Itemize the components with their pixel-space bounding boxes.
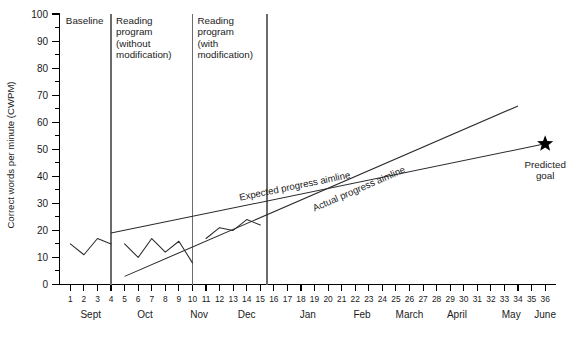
x-axis-month-label: March xyxy=(396,309,424,320)
phase-label-line: modification) xyxy=(116,49,172,60)
x-tick-label: 1 xyxy=(68,294,73,304)
predicted-goal-label-line1: Predicted xyxy=(524,159,565,170)
x-tick-label: 29 xyxy=(446,294,456,304)
phase-label-line: Baseline xyxy=(66,15,104,26)
x-axis-ticks xyxy=(70,285,545,292)
x-axis-month-label: Nov xyxy=(190,309,208,320)
x-axis-month-label: Dec xyxy=(238,309,256,320)
aimline-label-group: Expected progress aimlineActual progress… xyxy=(238,164,407,214)
x-tick-label: 21 xyxy=(337,294,347,304)
x-axis-month-label: Jan xyxy=(300,309,316,320)
phase-condition-labels: BaselineReadingprogram(withoutmodificati… xyxy=(66,15,253,60)
y-tick-label: 40 xyxy=(37,171,49,182)
aimline xyxy=(125,106,518,276)
data-series-group xyxy=(70,220,260,263)
y-tick-label: 60 xyxy=(37,117,49,128)
x-tick-label: 3 xyxy=(95,294,100,304)
chart-canvas: Correct words per minute (CWPM) 01020304… xyxy=(0,0,568,339)
x-tick-label: 23 xyxy=(364,294,374,304)
y-axis-tick-labels: 0102030405060708090100 xyxy=(31,9,48,291)
x-tick-label: 33 xyxy=(500,294,510,304)
progress-monitoring-chart: Correct words per minute (CWPM) 01020304… xyxy=(0,0,568,339)
x-tick-label: 14 xyxy=(242,294,252,304)
phase-label-line: program xyxy=(116,26,152,37)
x-tick-label: 4 xyxy=(109,294,114,304)
y-tick-label: 20 xyxy=(37,225,49,236)
data-series-line xyxy=(70,239,111,255)
x-axis-month-label: Feb xyxy=(353,309,371,320)
x-tick-label: 6 xyxy=(136,294,141,304)
x-tick-label: 20 xyxy=(323,294,333,304)
y-tick-label: 90 xyxy=(37,36,49,47)
x-axis-month-labels: SeptOctNovDecJanFebMarchAprilMayJune xyxy=(80,309,556,320)
x-tick-label: 36 xyxy=(540,294,550,304)
x-tick-label: 24 xyxy=(378,294,388,304)
x-axis-tick-labels: 1234567891011121314151617181920212223242… xyxy=(68,294,550,304)
phase-label-line: Reading xyxy=(197,15,234,26)
x-tick-label: 27 xyxy=(418,294,428,304)
x-tick-label: 8 xyxy=(163,294,168,304)
y-tick-label: 80 xyxy=(37,63,49,74)
x-tick-label: 32 xyxy=(486,294,496,304)
x-tick-label: 15 xyxy=(256,294,266,304)
y-axis-label-text: Correct words per minute (CWPM) xyxy=(5,81,16,228)
phase-label-line: program xyxy=(197,26,233,37)
x-tick-label: 25 xyxy=(391,294,401,304)
data-series-line xyxy=(125,239,193,263)
y-tick-label: 10 xyxy=(37,252,49,263)
y-axis-label: Correct words per minute (CWPM) xyxy=(5,81,16,228)
aimline-label: Actual progress aimline xyxy=(311,164,407,214)
x-axis-month-label: June xyxy=(534,309,556,320)
aimline-group xyxy=(111,106,545,276)
x-tick-label: 28 xyxy=(432,294,442,304)
predicted-goal-label-line2: goal xyxy=(536,170,555,181)
x-tick-label: 12 xyxy=(215,294,225,304)
x-tick-label: 11 xyxy=(202,294,211,304)
x-tick-label: 34 xyxy=(513,294,523,304)
x-axis-month-label: Oct xyxy=(137,309,153,320)
x-tick-label: 30 xyxy=(459,294,469,304)
x-tick-label: 9 xyxy=(177,294,182,304)
x-tick-label: 5 xyxy=(122,294,127,304)
x-tick-label: 13 xyxy=(228,294,238,304)
x-tick-label: 31 xyxy=(473,294,483,304)
x-tick-label: 18 xyxy=(296,294,306,304)
y-tick-label: 30 xyxy=(37,198,49,209)
x-tick-label: 22 xyxy=(351,294,361,304)
x-tick-label: 26 xyxy=(405,294,415,304)
phase-label-line: modification) xyxy=(197,49,253,60)
x-tick-label: 19 xyxy=(310,294,320,304)
x-axis-month-label: May xyxy=(502,309,521,320)
x-tick-label: 7 xyxy=(149,294,154,304)
x-tick-label: 16 xyxy=(269,294,279,304)
x-tick-label: 10 xyxy=(188,294,198,304)
x-axis-month-label: April xyxy=(447,309,467,320)
y-tick-label: 70 xyxy=(37,90,49,101)
phase-label-line: (without xyxy=(116,38,151,49)
y-tick-label: 0 xyxy=(42,279,48,290)
marker-group: Predictedgoal xyxy=(524,135,565,181)
x-tick-label: 35 xyxy=(527,294,537,304)
y-tick-label: 50 xyxy=(37,144,49,155)
x-axis-month-label: Sept xyxy=(80,309,101,320)
y-tick-label: 100 xyxy=(31,9,48,20)
phase-label-line: Reading xyxy=(116,15,153,26)
x-tick-label: 17 xyxy=(283,294,293,304)
phase-label-line: (with xyxy=(197,38,218,49)
predicted-goal-star-icon xyxy=(537,135,553,150)
x-tick-label: 2 xyxy=(82,294,87,304)
